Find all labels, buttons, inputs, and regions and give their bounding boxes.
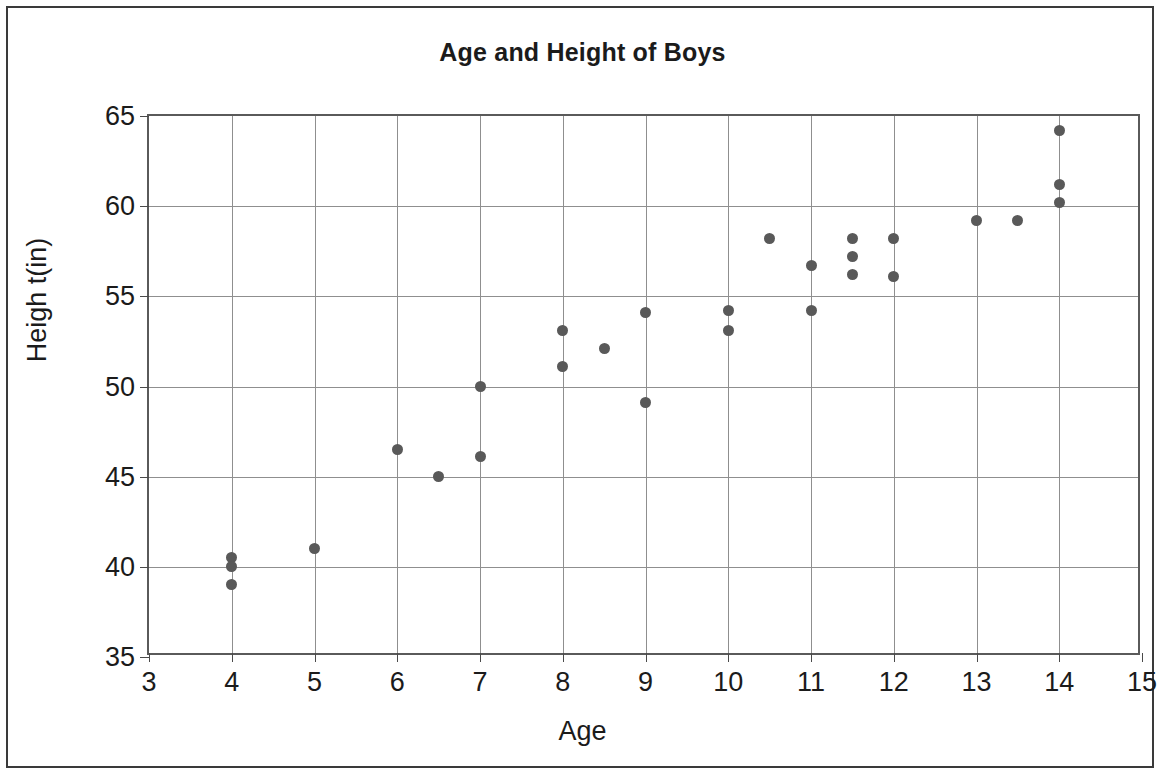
scatter-point <box>1054 179 1065 190</box>
x-tick-mark <box>397 653 398 662</box>
scatter-point <box>847 269 858 280</box>
y-tick-mark <box>140 296 149 297</box>
x-tick-label: 11 <box>797 667 825 698</box>
chart-title: Age and Height of Boys <box>0 38 1165 67</box>
y-tick-label: 35 <box>105 642 135 673</box>
gridline-horizontal <box>149 477 1138 478</box>
x-tick-mark <box>563 653 564 662</box>
x-tick-label: 3 <box>141 667 156 698</box>
gridline-vertical <box>315 116 316 653</box>
scatter-point <box>557 325 568 336</box>
x-tick-mark <box>1059 653 1060 662</box>
y-tick-mark <box>140 206 149 207</box>
x-tick-mark <box>149 653 150 662</box>
x-tick-mark <box>480 653 481 662</box>
y-tick-label: 55 <box>105 281 135 312</box>
scatter-point <box>475 451 486 462</box>
scatter-point <box>433 471 444 482</box>
scatter-point <box>226 579 237 590</box>
gridline-vertical <box>232 116 233 653</box>
x-tick-mark <box>811 653 812 662</box>
x-tick-label: 5 <box>307 667 322 698</box>
scatter-point <box>723 305 734 316</box>
y-tick-label: 40 <box>105 551 135 582</box>
y-tick-label: 50 <box>105 371 135 402</box>
chart-page: Age and Height of Boys Heigh t(in) 35404… <box>0 0 1165 783</box>
scatter-point <box>640 397 651 408</box>
x-tick-mark <box>232 653 233 662</box>
scatter-point <box>557 361 568 372</box>
x-tick-label: 4 <box>224 667 239 698</box>
x-tick-label: 9 <box>638 667 653 698</box>
scatter-point <box>640 307 651 318</box>
scatter-point <box>723 325 734 336</box>
scatter-point <box>392 444 403 455</box>
x-tick-label: 13 <box>961 667 991 698</box>
x-tick-mark <box>977 653 978 662</box>
scatter-point <box>475 381 486 392</box>
gridline-vertical <box>977 116 978 653</box>
gridline-vertical <box>894 116 895 653</box>
x-tick-mark <box>315 653 316 662</box>
scatter-point <box>888 233 899 244</box>
scatter-point <box>764 233 775 244</box>
scatter-point <box>309 543 320 554</box>
scatter-point <box>806 305 817 316</box>
scatter-point <box>971 215 982 226</box>
x-tick-label: 7 <box>472 667 487 698</box>
gridline-vertical <box>728 116 729 653</box>
x-tick-mark <box>728 653 729 662</box>
scatter-point <box>226 561 237 572</box>
x-tick-mark <box>1142 653 1143 662</box>
scatter-point <box>1054 125 1065 136</box>
y-tick-mark <box>140 657 149 658</box>
y-tick-mark <box>140 116 149 117</box>
x-tick-label: 10 <box>713 667 743 698</box>
y-tick-mark <box>140 387 149 388</box>
x-tick-mark <box>646 653 647 662</box>
scatter-point <box>599 343 610 354</box>
gridline-horizontal <box>149 206 1138 207</box>
scatter-point <box>806 260 817 271</box>
y-axis-label: Heigh t(in) <box>22 238 53 363</box>
scatter-point <box>847 233 858 244</box>
x-axis-label: Age <box>0 716 1165 747</box>
x-tick-label: 6 <box>390 667 405 698</box>
y-tick-label: 65 <box>105 101 135 132</box>
y-tick-label: 60 <box>105 191 135 222</box>
gridline-horizontal <box>149 296 1138 297</box>
y-tick-mark <box>140 477 149 478</box>
y-tick-mark <box>140 567 149 568</box>
gridline-horizontal <box>149 567 1138 568</box>
gridline-vertical <box>397 116 398 653</box>
scatter-point <box>888 271 899 282</box>
x-tick-label: 8 <box>555 667 570 698</box>
scatter-point <box>1054 197 1065 208</box>
gridline-vertical <box>646 116 647 653</box>
y-tick-label: 45 <box>105 461 135 492</box>
gridline-vertical <box>811 116 812 653</box>
gridline-horizontal <box>149 387 1138 388</box>
x-tick-mark <box>894 653 895 662</box>
x-tick-label: 12 <box>879 667 909 698</box>
plot-area: 35404550556065 3456789101112131415 <box>147 114 1140 655</box>
scatter-point <box>847 251 858 262</box>
gridline-vertical <box>563 116 564 653</box>
scatter-point <box>1012 215 1023 226</box>
x-tick-label: 14 <box>1044 667 1074 698</box>
x-tick-label: 15 <box>1127 667 1157 698</box>
